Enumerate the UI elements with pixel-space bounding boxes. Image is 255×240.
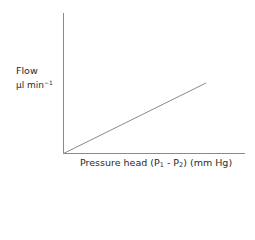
x-label-part: Pressure head (P [80, 157, 160, 168]
y-axis-label-title: Flow [16, 65, 53, 77]
data-line [64, 83, 207, 154]
y-units-exponent: −1 [44, 79, 53, 86]
x-label-part: ) (mm Hg) [183, 157, 232, 168]
y-axis-label: Flow µl min−1 [16, 65, 53, 91]
x-label-part: - P [164, 157, 179, 168]
y-axis-label-units: µl min−1 [16, 77, 53, 91]
x-axis-label: Pressure head (P1 - P2) (mm Hg) [80, 157, 232, 169]
y-units-text: µl min [16, 80, 44, 90]
